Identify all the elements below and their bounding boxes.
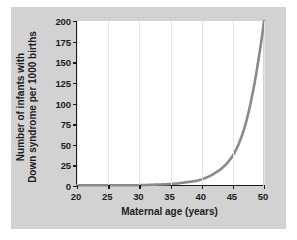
- gridline-x-20: [77, 21, 78, 185]
- x-tick-mark-50: [264, 185, 265, 189]
- y-tick-mark-125: [73, 83, 77, 84]
- y-axis-title-line-2: Down syndrome per 1000 births: [27, 22, 39, 192]
- y-axis-title-line-1: Number of infants with: [15, 22, 27, 192]
- x-tick-label-40: 40: [195, 191, 205, 202]
- gridline-x-50: [264, 21, 265, 185]
- gridline-x-45: [233, 21, 234, 185]
- y-tick-label-25: 25: [61, 160, 71, 171]
- gridline-x-30: [139, 21, 140, 185]
- plot-area: [76, 21, 263, 186]
- y-tick-mark-150: [73, 62, 77, 63]
- y-tick-mark-75: [73, 124, 77, 125]
- y-tick-label-125: 125: [55, 77, 71, 88]
- x-tick-mark-35: [171, 185, 172, 189]
- figure-container: 0255075100125150175200 20253035404550 Ma…: [0, 0, 297, 240]
- x-tick-label-30: 30: [133, 191, 143, 202]
- y-axis-title: Number of infants with Down syndrome per…: [15, 22, 39, 192]
- down-syndrome-incidence-chart: 0255075100125150175200 20253035404550 Ma…: [0, 0, 297, 240]
- gridline-x-40: [202, 21, 203, 185]
- y-tick-label-200: 200: [55, 16, 71, 27]
- y-tick-label-50: 50: [61, 139, 71, 150]
- gridline-x-25: [108, 21, 109, 185]
- y-tick-mark-200: [73, 21, 77, 22]
- y-tick-mark-100: [73, 104, 77, 105]
- y-tick-label-0: 0: [66, 181, 71, 192]
- y-tick-label-75: 75: [61, 119, 71, 130]
- y-tick-mark-50: [73, 145, 77, 146]
- x-axis-tick-labels: 20253035404550: [76, 191, 263, 205]
- x-tick-label-35: 35: [164, 191, 174, 202]
- gridline-x-35: [171, 21, 172, 185]
- x-tick-label-45: 45: [227, 191, 237, 202]
- x-tick-mark-25: [108, 185, 109, 189]
- y-tick-mark-0: [73, 186, 77, 187]
- x-tick-mark-40: [202, 185, 203, 189]
- y-tick-label-100: 100: [55, 98, 71, 109]
- y-axis-tick-labels: 0255075100125150175200: [46, 21, 71, 186]
- x-tick-mark-20: [77, 185, 78, 189]
- y-tick-label-175: 175: [55, 36, 71, 47]
- x-tick-mark-30: [139, 185, 140, 189]
- y-tick-mark-175: [73, 42, 77, 43]
- x-axis-title: Maternal age (years): [76, 206, 263, 217]
- y-tick-label-150: 150: [55, 57, 71, 68]
- x-tick-label-25: 25: [102, 191, 112, 202]
- x-tick-label-50: 50: [258, 191, 268, 202]
- x-tick-label-20: 20: [71, 191, 81, 202]
- x-tick-mark-45: [233, 185, 234, 189]
- y-tick-mark-25: [73, 165, 77, 166]
